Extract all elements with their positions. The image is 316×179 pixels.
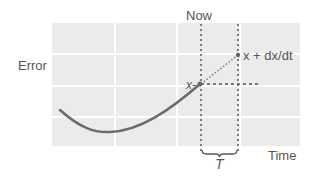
x-axis-label: Time	[268, 148, 296, 163]
current-point-marker	[198, 82, 203, 87]
error-derivative-diagram: Error Time Now x- x + dx/dt T	[0, 0, 316, 179]
predicted-point-label: x + dx/dt	[243, 48, 293, 63]
now-label: Now	[186, 8, 213, 23]
current-point-label: x-	[185, 78, 196, 92]
predicted-point-marker	[236, 53, 240, 57]
interval-label: T	[215, 156, 225, 172]
y-axis-label: Error	[18, 58, 48, 73]
background-grid	[52, 23, 300, 146]
